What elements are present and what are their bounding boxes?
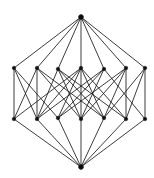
graph-edge [37,119,81,167]
graph-edge [14,68,58,118]
graph-edge [58,17,81,69]
graph-edge [58,69,126,119]
graph-vertex-apex [79,165,84,170]
graph-vertex [79,66,83,70]
graph-edge [81,17,104,69]
graph-edge [81,17,126,68]
graph-vertex-apex [79,15,84,20]
graph-edge [126,68,145,119]
graph-edge [104,68,145,118]
graph-vertex [102,67,106,71]
graph-vertex [124,117,128,121]
graph-vertex [102,116,106,120]
graph-vertex [143,66,147,70]
graph-vertex [56,116,60,120]
graph-vertex [124,66,128,70]
graph-vertex [12,117,16,121]
graph-edge [37,17,81,68]
graph-edge [81,17,145,68]
graph-vertex [35,117,39,121]
graph-edge-layer [14,17,145,167]
graph-vertex [35,66,39,70]
graph-edge [14,17,81,68]
graph-edge [81,118,104,167]
graph-vertex [56,67,60,71]
graph-vertex [12,66,16,70]
lattice-graph-canvas [0,0,154,178]
graph-edge [58,68,126,118]
graph-edge [14,119,81,167]
graph-edge [81,119,145,167]
graph-edge [58,118,81,167]
graph-vertex [143,117,147,121]
lattice-diagram-figure [0,0,154,178]
graph-edge [81,119,126,167]
graph-edge [104,69,145,119]
graph-vertex [79,117,83,121]
